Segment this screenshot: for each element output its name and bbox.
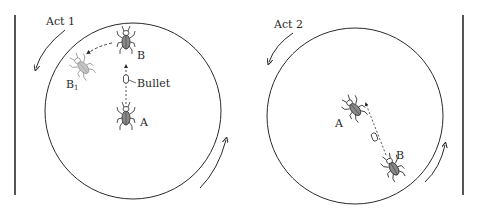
act1-bullet-leader	[129, 80, 136, 83]
act1-displacement-arrow	[88, 43, 112, 53]
act1-panel: Act 1 B B1 Bullet A	[15, 15, 226, 199]
act1-label-b1: B1	[66, 78, 79, 92]
act1-label-a: A	[139, 116, 149, 129]
act2-label-a: A	[334, 117, 344, 130]
act2-bullet-path	[366, 104, 386, 155]
act1-beetle-a-icon	[117, 102, 135, 130]
act1-beetle-b-icon	[117, 26, 135, 54]
act2-title: Act 2	[273, 18, 303, 31]
act1-bullet-icon	[124, 75, 129, 83]
act2-panel: Act 2 A B	[267, 15, 463, 204]
figure-stage: Act 1 B B1 Bullet A Act 2	[0, 0, 479, 211]
act1-bullet-label: Bullet	[137, 77, 171, 90]
act1-turntable-circle	[45, 23, 221, 199]
act2-rotation-arrow-bottom	[425, 145, 445, 182]
act1-label-b: B	[137, 49, 145, 62]
act1-title: Act 1	[45, 15, 75, 28]
act2-label-b: B	[396, 149, 404, 162]
act2-turntable-circle	[267, 28, 443, 204]
act1-rotation-arrow-top	[36, 30, 65, 68]
act2-bullet-icon	[371, 132, 379, 141]
